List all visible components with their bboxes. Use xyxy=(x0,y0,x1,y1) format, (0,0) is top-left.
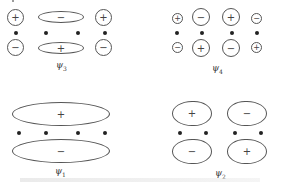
psi3-bottom-right-lobe: − xyxy=(95,39,112,56)
atom-dot xyxy=(178,131,182,135)
psi3-label: ψ3 xyxy=(56,60,67,72)
psi3-bottom-center-lobe: + xyxy=(38,42,84,54)
atom-dot xyxy=(103,131,107,135)
atom-dot xyxy=(230,31,234,35)
psi3-top-center-lobe: − xyxy=(38,11,84,23)
psi4-bottom-4-lobe: + xyxy=(251,42,262,53)
psi4-top-1-lobe: + xyxy=(172,13,183,24)
psi2-bottom-right-lobe: + xyxy=(227,139,267,164)
psi3-top-right-lobe: + xyxy=(95,9,112,26)
psi1-top-lobe: + xyxy=(12,102,110,126)
psi4-bottom-2-lobe: + xyxy=(192,39,210,57)
atom-dot xyxy=(259,131,263,135)
atom-dot xyxy=(204,131,208,135)
atom-dot xyxy=(103,31,107,35)
atom-dot xyxy=(233,131,237,135)
atom-dot xyxy=(44,131,48,135)
psi4-top-2-lobe: − xyxy=(192,8,210,26)
psi2-bottom-left-lobe: − xyxy=(172,139,212,164)
atom-dot xyxy=(14,31,18,35)
psi4-label: ψ4 xyxy=(212,63,223,75)
psi4-top-3-lobe: + xyxy=(222,8,240,26)
atom-dot xyxy=(200,31,204,35)
atom-dot xyxy=(76,131,80,135)
psi4-bottom-3-lobe: − xyxy=(222,39,240,57)
psi4-top-4-lobe: − xyxy=(251,13,262,24)
psi4-bottom-1-lobe: − xyxy=(172,42,183,53)
psi2-top-left-lobe: + xyxy=(172,101,212,126)
atom-dot xyxy=(175,31,179,35)
atom-dot xyxy=(44,31,48,35)
figure-caption-cropped xyxy=(20,178,260,182)
psi1-label: ψ1 xyxy=(55,166,66,178)
atom-dot xyxy=(76,31,80,35)
psi1-bottom-lobe: − xyxy=(12,139,110,163)
atom-dot xyxy=(255,31,259,35)
psi2-top-right-lobe: − xyxy=(227,101,267,126)
psi3-top-left-lobe: + xyxy=(7,9,24,26)
psi3-bottom-left-lobe: − xyxy=(7,39,24,56)
atom-dot xyxy=(17,131,21,135)
